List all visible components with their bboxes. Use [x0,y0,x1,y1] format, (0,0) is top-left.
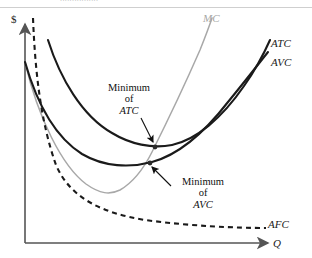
cost-curves-figure: ................ $ Q [0,0,312,258]
axis-group [25,24,268,243]
mc-curve-label: MC [203,13,220,25]
y-axis-label: $ [11,14,17,26]
plot-canvas [0,0,312,258]
min-avc-point [148,161,153,166]
x-axis-label: Q [273,238,281,250]
min-avc-annotation: Minimum of AVC [167,176,239,210]
min-atc-annotation-line3: ATC [93,105,165,116]
min-atc-arrow [141,118,153,142]
min-avc-annotation-line3: AVC [167,199,239,210]
min-atc-point [153,145,158,150]
min-atc-annotation-line1: Minimum [93,82,165,93]
atc-curve-label: ATC [271,38,291,50]
afc-curve-label: AFC [268,219,289,231]
min-avc-annotation-line1: Minimum [167,176,239,187]
min-atc-annotation: Minimum of ATC [93,82,165,116]
min-avc-annotation-line2: of [167,187,239,198]
min-atc-annotation-line2: of [93,93,165,104]
avc-curve-label: AVC [271,57,291,69]
